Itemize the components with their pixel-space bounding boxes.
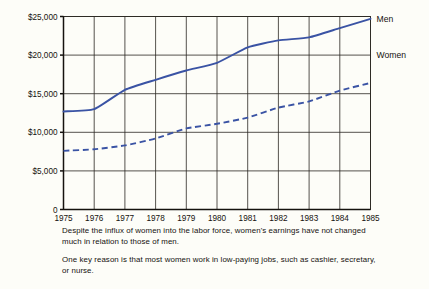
x-tick-label: 1976 xyxy=(85,214,104,223)
x-tick-label: 1985 xyxy=(361,214,380,223)
y-tick-label: $20,000 xyxy=(28,51,58,60)
y-tick-label: $25,000 xyxy=(28,13,58,22)
x-axis-tick-labels: 1975197619771978197919801981198219831984… xyxy=(54,214,380,223)
x-tick-label: 1983 xyxy=(300,214,319,223)
series-label-women: Women xyxy=(377,50,407,60)
x-tick-label: 1984 xyxy=(331,214,350,223)
x-tick-label: 1982 xyxy=(269,214,288,223)
series-label-men: Men xyxy=(377,14,394,24)
chart-gridlines xyxy=(64,17,371,210)
y-tick-label: $5,000 xyxy=(32,167,57,176)
x-tick-label: 1975 xyxy=(54,214,73,223)
x-tick-label: 1981 xyxy=(239,214,258,223)
series-inline-labels: MenWomen xyxy=(377,14,407,60)
caption-block: Despite the influx of women into the lab… xyxy=(62,226,382,284)
earnings-chart-figure: 0$5,000$10,000$15,000$20,000$25,000 1975… xyxy=(0,0,429,289)
caption-paragraph-2: One key reason is that most women work i… xyxy=(62,255,382,276)
x-tick-label: 1978 xyxy=(146,214,165,223)
x-tick-label: 1979 xyxy=(177,214,196,223)
y-tick-label: $15,000 xyxy=(28,90,58,99)
caption-paragraph-1: Despite the influx of women into the lab… xyxy=(62,226,382,247)
y-axis-tick-labels: 0$5,000$10,000$15,000$20,000$25,000 xyxy=(28,13,64,215)
x-tick-label: 1980 xyxy=(208,214,227,223)
y-tick-label: $10,000 xyxy=(28,128,58,137)
x-tick-label: 1977 xyxy=(116,214,135,223)
